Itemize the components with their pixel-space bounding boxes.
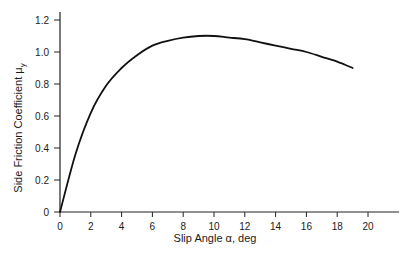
y-tick-label: 1.0: [35, 47, 49, 58]
x-tick-label: 16: [301, 221, 313, 232]
x-tick-label: 0: [57, 221, 63, 232]
y-tick-label: 0.8: [35, 79, 49, 90]
x-tick-label: 18: [332, 221, 344, 232]
x-tick-label: 4: [119, 221, 125, 232]
x-axis-ticks: 02468101214161820: [57, 212, 374, 232]
x-tick-label: 10: [208, 221, 220, 232]
y-axis-title: Side Friction Coefficient μy: [12, 63, 27, 192]
x-tick-label: 20: [362, 221, 374, 232]
x-axis-title: Slip Angle α, deg: [174, 232, 257, 244]
friction-curve: [60, 36, 353, 212]
y-tick-label: 0.2: [35, 175, 49, 186]
x-tick-label: 2: [88, 221, 94, 232]
x-tick-label: 14: [270, 221, 282, 232]
y-tick-label: 0.6: [35, 111, 49, 122]
x-tick-label: 6: [150, 221, 156, 232]
y-axis-title-subscript: y: [18, 63, 27, 67]
side-friction-chart: 02468101214161820 00.20.40.60.81.01.2 Sl…: [0, 0, 410, 266]
axes: [60, 12, 399, 212]
x-tick-label: 8: [180, 221, 186, 232]
y-tick-label: 0: [43, 207, 49, 218]
y-axis-ticks: 00.20.40.60.81.01.2: [35, 15, 60, 218]
y-tick-label: 1.2: [35, 15, 49, 26]
y-axis-title-text: Side Friction Coefficient μ: [12, 67, 24, 192]
x-tick-label: 12: [239, 221, 251, 232]
y-tick-label: 0.4: [35, 143, 49, 154]
